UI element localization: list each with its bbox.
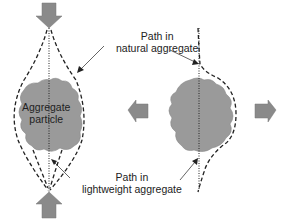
aggregate-crack-path-diagram: Aggregate particle Path in natural aggre… <box>0 0 282 219</box>
aggregate-particle-label: Aggregate particle <box>22 101 70 125</box>
particle-label-line1: Aggregate <box>22 101 70 113</box>
tension-arrow-left-icon <box>128 100 148 122</box>
natural-aggregate-path-label: Path in natural aggregate <box>116 30 198 54</box>
load-arrow-up-icon <box>36 192 62 218</box>
lightweight-label-line2: lightweight aggregate <box>82 183 182 195</box>
lightweight-aggregate-path-label: Path in lightweight aggregate <box>82 171 182 195</box>
particle-label-line2: particle <box>22 113 70 125</box>
path-lightweight-aggregate-left <box>33 150 62 188</box>
load-arrow-down-icon <box>36 3 62 28</box>
tension-arrow-right-icon <box>255 100 276 122</box>
lightweight-label-line1: Path in <box>82 171 182 183</box>
natural-label-line2: natural aggregate <box>116 42 198 54</box>
aggregate-particle-right <box>169 78 233 152</box>
natural-label-line1: Path in <box>116 30 198 42</box>
